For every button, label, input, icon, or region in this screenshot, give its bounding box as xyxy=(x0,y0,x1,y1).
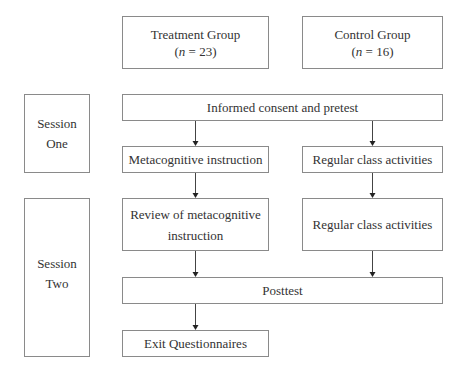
arrowhead-icon xyxy=(370,193,376,198)
arrowhead-icon xyxy=(193,272,199,277)
arrowhead-icon xyxy=(193,193,199,198)
arrowhead-icon xyxy=(370,141,376,146)
arrowhead-icon xyxy=(370,272,376,277)
arrowhead-icon xyxy=(193,325,199,330)
flow-arrows xyxy=(0,0,463,375)
arrowhead-icon xyxy=(193,141,199,146)
